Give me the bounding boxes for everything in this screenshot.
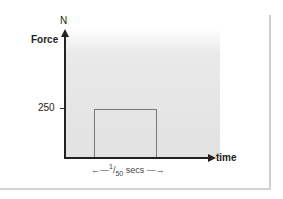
y-tick-label: 250: [38, 102, 55, 113]
x-axis-arrow-icon: [208, 154, 216, 162]
y-axis-label: Force: [31, 34, 58, 45]
right-arrow-icon: —→: [147, 165, 165, 175]
duration-denominator: 50: [115, 170, 123, 177]
x-axis-line: [64, 157, 209, 159]
duration-unit: secs: [126, 165, 145, 175]
force-pulse: [94, 109, 157, 157]
y-tick-250: [60, 108, 65, 109]
y-axis-line: [64, 36, 66, 159]
y-axis-arrow-icon: [61, 29, 69, 37]
frame-right-border: [269, 15, 271, 189]
x-axis-label: time: [216, 152, 237, 163]
duration-annotation: ←—1/50 secs —→: [91, 163, 165, 177]
frame-bottom-border: [0, 188, 271, 190]
left-arrow-icon: ←—: [91, 165, 109, 175]
y-unit-label: N: [60, 15, 67, 26]
duration-numerator: 1: [109, 163, 113, 170]
